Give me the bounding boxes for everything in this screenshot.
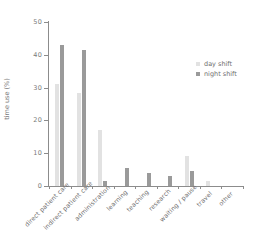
y-tick-label: 0 [20, 182, 42, 190]
x-tick-mark [71, 186, 72, 189]
y-tick-mark [44, 120, 48, 121]
bar-day-shift-administration [98, 130, 102, 186]
x-tick-mark [135, 186, 136, 189]
x-tick-mark [200, 186, 201, 189]
legend-item-day-shift: day shift [196, 59, 237, 69]
y-tick-label: 10 [20, 149, 42, 157]
x-tick-mark [157, 186, 158, 189]
y-tick-label: 50 [20, 18, 42, 26]
y-tick-mark [44, 88, 48, 89]
y-tick-mark [44, 186, 48, 187]
bar-night-shift-research [168, 176, 172, 186]
y-tick-mark [44, 55, 48, 56]
plot-area [49, 22, 243, 186]
x-tick-mark [49, 186, 50, 189]
legend-swatch-icon [196, 62, 200, 66]
legend-swatch-icon [196, 72, 200, 76]
y-tick-mark [44, 22, 48, 23]
y-tick-mark [44, 153, 48, 154]
bar-day-shift-direct-patient-care [55, 84, 59, 186]
y-tick-label: 20 [20, 116, 42, 124]
legend-label: night shift [204, 70, 237, 78]
y-tick-label: 30 [20, 84, 42, 92]
x-tick-mark [114, 186, 115, 189]
x-tick-mark [178, 186, 179, 189]
y-tick-label: 40 [20, 51, 42, 59]
x-label-other: other [217, 190, 234, 207]
legend-label: day shift [204, 60, 232, 68]
legend-item-night-shift: night shift [196, 69, 237, 79]
x-label-teaching: teaching [125, 188, 150, 213]
bar-night-shift-learning [125, 168, 129, 186]
bar-day-shift-indirect-patient-care [77, 93, 81, 186]
bar-night-shift-indirect-patient-care [82, 50, 86, 186]
bar-day-shift-waiting-pause [185, 156, 189, 186]
bar-chart: time use (%) 01020304050 direct patient … [0, 0, 254, 249]
bar-day-shift-travel [206, 181, 210, 186]
legend: day shiftnight shift [196, 59, 237, 79]
bar-night-shift-direct-patient-care [60, 45, 64, 186]
x-tick-mark [92, 186, 93, 189]
y-axis-title: time use (%) [3, 64, 11, 134]
x-tick-mark [243, 186, 244, 189]
bar-night-shift-teaching [147, 173, 151, 186]
x-axis-line [48, 186, 244, 187]
x-label-travel: travel [195, 190, 213, 208]
x-tick-mark [221, 186, 222, 189]
